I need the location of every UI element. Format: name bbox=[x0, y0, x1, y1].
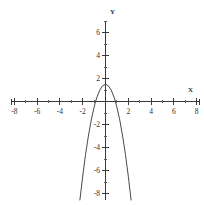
x-tick-label: -6 bbox=[34, 107, 40, 116]
x-axis-label: X bbox=[188, 86, 193, 94]
y-tick-label: 2 bbox=[96, 74, 100, 83]
x-tick-label: 2 bbox=[126, 107, 130, 116]
x-tick-label: -4 bbox=[57, 107, 63, 116]
y-tick-label: -4 bbox=[94, 143, 100, 152]
y-tick-label: -8 bbox=[94, 189, 100, 198]
x-tick-label: 4 bbox=[149, 107, 153, 116]
y-tick-label: 4 bbox=[96, 51, 100, 60]
y-tick-label: -6 bbox=[94, 166, 100, 175]
x-tick-label: 6 bbox=[172, 107, 176, 116]
x-tick-label: -8 bbox=[11, 107, 17, 116]
parabola-graph-figure: -8-6-4-22468642-2-4-6-8 X Y bbox=[0, 0, 204, 205]
x-tick-label: 8 bbox=[195, 107, 199, 116]
y-axis-label: Y bbox=[110, 8, 115, 16]
y-tick-label: 6 bbox=[96, 28, 100, 37]
plot-area: -8-6-4-22468642-2-4-6-8 X Y bbox=[0, 0, 204, 205]
y-tick-label: -2 bbox=[94, 120, 100, 129]
x-tick-label: -2 bbox=[80, 107, 86, 116]
